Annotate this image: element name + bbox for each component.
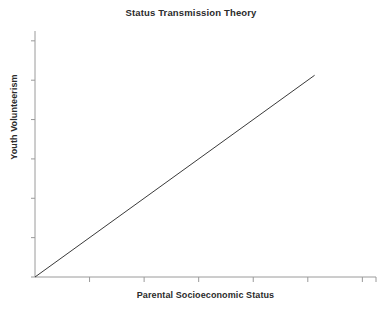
data-series-line xyxy=(35,75,315,277)
plot-area xyxy=(0,0,382,312)
x-axis-ticks xyxy=(90,277,376,282)
y-axis-ticks xyxy=(31,41,35,277)
data-series-group xyxy=(35,75,315,277)
chart-figure: Status Transmission Theory Youth Volunte… xyxy=(0,0,382,312)
